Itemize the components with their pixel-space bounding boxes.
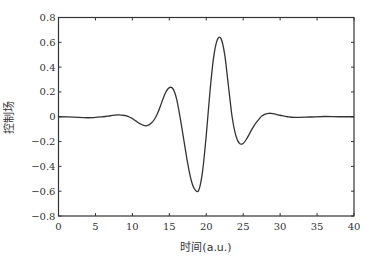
y-tick-label: 0.8 [40,12,56,23]
series-line [59,37,355,192]
y-tick-label: −0.8 [31,211,55,222]
y-tick-label: 0.4 [40,62,56,73]
y-tick-label: 0.2 [40,86,56,97]
x-tick-label: 0 [55,221,61,232]
y-axis-label: 控制场 [2,101,16,134]
y-tick-label: 0 [49,111,55,122]
line-chart: 0510152025303540 0.80.60.40.20−0.2−0.4−0… [0,0,378,261]
series-layer [59,37,355,192]
y-tick-label: 0.6 [40,37,56,48]
x-tick-label: 20 [200,221,213,232]
y-tick-label: −0.4 [31,161,55,172]
x-tick-label: 40 [348,221,361,232]
x-axis-ticks: 0510152025303540 [55,18,360,233]
x-tick-label: 5 [92,221,98,232]
x-tick-label: 35 [311,221,324,232]
y-tick-label: −0.6 [31,186,55,197]
x-tick-label: 10 [126,221,139,232]
x-tick-label: 25 [237,221,250,232]
y-tick-label: −0.2 [31,136,55,147]
x-tick-label: 15 [163,221,176,232]
x-tick-label: 30 [274,221,287,232]
x-axis-label: 时间(a.u.) [180,241,231,254]
